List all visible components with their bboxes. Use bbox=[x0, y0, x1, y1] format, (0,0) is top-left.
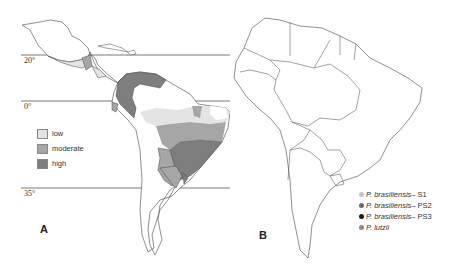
latitude-label-35: 35° bbox=[24, 189, 35, 198]
latitude-label-20: 20° bbox=[24, 56, 35, 65]
legend-label-moderate: moderate bbox=[52, 144, 84, 153]
panel-letter-a: A bbox=[40, 223, 48, 235]
species-legend: P. brasiliensis – S1 P. brasiliensis – P… bbox=[359, 189, 432, 233]
legend-species-ps2: P. brasiliensis bbox=[366, 201, 411, 210]
legend-item-high: high bbox=[37, 156, 84, 171]
legend-dot-ps2 bbox=[359, 203, 364, 208]
legend-suffix-ps2: – PS2 bbox=[411, 201, 431, 210]
legend-dot-ps3 bbox=[359, 214, 364, 219]
endemicity-legend: low moderate high bbox=[37, 126, 84, 171]
legend-suffix-ps3: – PS3 bbox=[411, 212, 431, 221]
panel-a-endemicity-map: 20° 0° 35° low moderate high A bbox=[0, 0, 230, 269]
panel-b-species-distribution-map: B P. brasiliensis – S1 P. brasiliensis –… bbox=[230, 0, 461, 269]
legend-species-ps3: P. brasiliensis bbox=[366, 212, 411, 221]
legend-label-low: low bbox=[52, 129, 63, 138]
legend-item-moderate: moderate bbox=[37, 141, 84, 156]
legend-item-s1: P. brasiliensis – S1 bbox=[359, 189, 432, 200]
legend-swatch-moderate bbox=[37, 144, 48, 154]
legend-species-lutzii: P. lutzii bbox=[366, 223, 389, 232]
legend-species-s1: P. brasiliensis bbox=[366, 190, 411, 199]
legend-label-high: high bbox=[52, 159, 66, 168]
legend-item-ps2: P. brasiliensis – PS2 bbox=[359, 200, 432, 211]
legend-dot-lutzii bbox=[359, 225, 364, 230]
legend-dot-s1 bbox=[359, 192, 364, 197]
legend-item-lutzii: P. lutzii bbox=[359, 222, 432, 233]
latitude-label-0: 0° bbox=[24, 102, 31, 111]
legend-suffix-s1: – S1 bbox=[411, 190, 426, 199]
legend-item-ps3: P. brasiliensis – PS3 bbox=[359, 211, 432, 222]
legend-swatch-low bbox=[37, 129, 48, 139]
legend-item-low: low bbox=[37, 126, 84, 141]
legend-swatch-high bbox=[37, 159, 48, 169]
latin-america-map bbox=[0, 0, 230, 269]
panel-letter-b: B bbox=[259, 229, 267, 241]
